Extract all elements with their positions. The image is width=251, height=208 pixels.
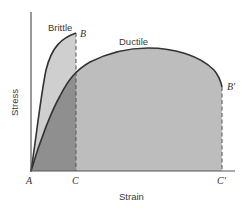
stress-strain-diagram: Brittle Ductile B B' A C C' Strain Stres…: [0, 0, 251, 208]
brittle-label: Brittle: [48, 22, 72, 33]
x-axis-title: Strain: [119, 191, 144, 202]
point-a-label: A: [25, 175, 33, 186]
point-b-prime-label: B': [227, 81, 236, 92]
y-axis-title: Stress: [9, 89, 20, 116]
ductile-label: Ductile: [119, 36, 148, 47]
point-c-label: C: [72, 175, 79, 186]
point-b-label: B: [80, 28, 86, 39]
point-c-prime-label: C': [217, 175, 227, 186]
